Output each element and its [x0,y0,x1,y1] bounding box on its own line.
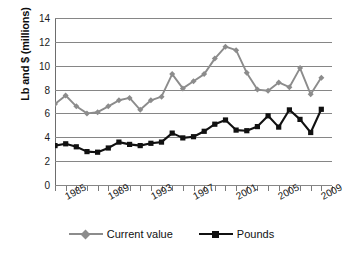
legend-swatch-icon [69,229,103,239]
x-axis-tick [183,186,184,191]
data-point-marker [159,94,165,100]
data-point-marker [223,117,228,122]
y-axis-tick-labels: 02468101214 [26,0,50,255]
x-axis-tick-labels: 1985198919931997200120052009 [55,192,343,222]
series-line-2 [55,109,321,152]
legend-entry-2[interactable]: Pounds [199,228,274,240]
x-axis-tick [268,186,269,191]
x-axis-tick [225,186,226,191]
legend-entry-1[interactable]: Current value [69,228,173,240]
data-point-marker [148,141,153,146]
data-point-marker [319,107,324,112]
data-point-marker [266,113,271,118]
data-point-marker [255,124,260,129]
x-axis-tick [98,186,99,191]
data-point-marker [244,128,249,133]
chart-legend: Current valuePounds [0,228,343,240]
data-point-marker [106,145,111,150]
data-point-marker [191,134,196,139]
y-axis-tick-label: 8 [28,84,50,95]
y-axis-tick-label: 6 [28,108,50,119]
data-point-marker [55,143,58,148]
data-point-marker [234,128,239,133]
series-svg [55,18,332,185]
data-point-marker [74,144,79,149]
legend-label: Pounds [237,228,274,240]
data-point-marker [138,143,143,148]
y-axis-tick-label: 0 [28,180,50,191]
series-line-1 [55,47,321,114]
data-point-marker [170,131,175,136]
y-axis-tick-label: 4 [28,132,50,143]
legend-marker [212,231,219,238]
y-axis-tick-label: 14 [28,13,50,24]
x-axis-tick [55,186,56,191]
data-point-marker [127,142,132,147]
data-point-marker [202,129,207,134]
data-point-marker [287,107,292,112]
y-axis-tick-label: 12 [28,36,50,47]
data-point-marker [116,140,121,145]
data-point-marker [180,135,185,140]
data-point-marker [84,149,89,154]
x-axis-tick [140,186,141,191]
legend-swatch-icon [199,229,233,239]
data-point-marker [308,130,313,135]
legend-label: Current value [107,228,173,240]
data-point-marker [212,122,217,127]
legend-marker [80,230,90,240]
data-point-marker [63,141,68,146]
y-axis-tick-label: 10 [28,60,50,71]
data-point-marker [297,117,302,122]
y-axis-tick-label: 2 [28,156,50,167]
data-point-marker [276,125,281,130]
data-point-marker [159,140,164,145]
x-axis-tick [311,186,312,191]
plot-area [55,18,332,185]
data-point-marker [95,150,100,155]
chart-container: Lb and $ (millions) 02468101214 19851989… [0,0,343,255]
data-point-marker [233,47,239,53]
